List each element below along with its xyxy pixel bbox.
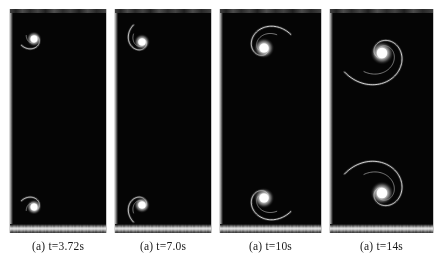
panel-caption-2: (a) t=7.0s — [114, 240, 212, 252]
top-wall-band — [330, 9, 433, 13]
panel-caption-3: (a) t=10s — [219, 240, 322, 252]
top-wall-band — [220, 9, 321, 13]
lower-vortex — [10, 9, 107, 233]
bottom-wall-texture — [10, 224, 106, 233]
lower-vortex — [220, 9, 322, 233]
image-panel-4 — [329, 9, 434, 233]
panel-caption-1: (a) t=3.72s — [9, 240, 107, 252]
top-wall-band — [10, 9, 106, 13]
bottom-wall-texture — [220, 224, 321, 233]
panel-caption-4: (a) t=14s — [329, 240, 434, 252]
bottom-wall-texture — [330, 224, 433, 233]
top-wall-band — [115, 9, 211, 13]
figure-panel-sequence: (a) t=3.72s(a) t=7.0s(a) t=10s(a) t=14s — [0, 0, 443, 265]
image-panel-2 — [114, 9, 212, 233]
bottom-wall-texture — [115, 224, 211, 233]
image-panel-3 — [219, 9, 322, 233]
image-panel-1 — [9, 9, 107, 233]
lower-vortex — [115, 9, 212, 233]
lower-vortex — [330, 9, 434, 233]
